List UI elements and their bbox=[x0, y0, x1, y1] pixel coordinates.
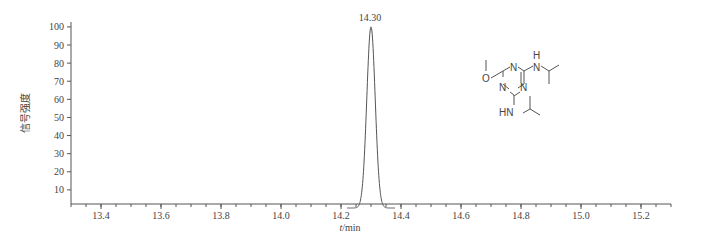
y-axis-ticks: 102030405060708090100 bbox=[49, 21, 71, 195]
struct-atom-nh-top: N bbox=[533, 62, 540, 73]
y-tick-label: 80 bbox=[54, 58, 64, 69]
chromatogram-chart: 102030405060708090100 13.413.613.814.014… bbox=[0, 0, 703, 244]
x-tick-label: 15.0 bbox=[572, 210, 590, 221]
y-tick-label: 70 bbox=[54, 76, 64, 87]
chemical-structure-labels: O N N N H N HN bbox=[482, 50, 540, 118]
struct-atom-n-right: N bbox=[520, 82, 527, 93]
struct-atom-h: H bbox=[533, 50, 540, 61]
struct-atom-n-left: N bbox=[499, 82, 506, 93]
y-tick-label: 30 bbox=[54, 148, 64, 159]
y-tick-label: 10 bbox=[54, 184, 64, 195]
chromatogram-trace bbox=[347, 27, 395, 208]
y-axis: 102030405060708090100 bbox=[49, 21, 71, 204]
x-tick-label: 13.8 bbox=[212, 210, 230, 221]
x-tick-label: 15.2 bbox=[632, 210, 650, 221]
x-axis-title-unit: /min bbox=[342, 222, 360, 233]
x-axis: 13.413.613.814.014.214.414.614.815.015.2 bbox=[71, 204, 671, 221]
x-axis-title: t/min bbox=[339, 222, 360, 233]
x-tick-label: 13.6 bbox=[152, 210, 170, 221]
x-axis-ticks: 13.413.613.814.014.214.414.614.815.015.2 bbox=[71, 204, 671, 221]
y-tick-label: 50 bbox=[54, 112, 64, 123]
x-tick-label: 14.2 bbox=[332, 210, 350, 221]
y-tick-label: 40 bbox=[54, 130, 64, 141]
x-tick-label: 14.4 bbox=[392, 210, 410, 221]
struct-atom-o: O bbox=[482, 73, 490, 84]
x-tick-label: 14.0 bbox=[272, 210, 290, 221]
y-tick-label: 90 bbox=[54, 40, 64, 51]
y-tick-label: 60 bbox=[54, 94, 64, 105]
x-tick-label: 14.8 bbox=[512, 210, 530, 221]
struct-atom-n-top: N bbox=[510, 62, 517, 73]
y-tick-label: 100 bbox=[49, 21, 64, 32]
peak-label: 14.30 bbox=[359, 12, 382, 23]
struct-atom-hn-bottom: HN bbox=[499, 107, 513, 118]
x-tick-label: 14.6 bbox=[452, 210, 470, 221]
y-tick-label: 20 bbox=[54, 166, 64, 177]
x-tick-label: 13.4 bbox=[92, 210, 110, 221]
y-axis-title: 信号强度 bbox=[19, 93, 31, 133]
